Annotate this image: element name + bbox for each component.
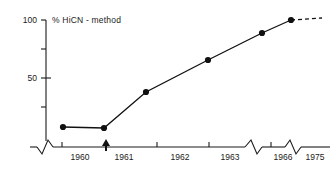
line-chart-svg: 100 50 % HiCN - method 1960 1961 196 [0,0,334,174]
series-line-extrapolation [291,18,322,20]
chart-title: % HiCN - method [52,15,121,25]
x-axis-label-1962: 1962 [171,152,190,162]
data-point [60,124,66,130]
x-axis-break-2 [245,140,262,154]
arrow-up-icon [102,139,110,151]
x-axis-label-1975: 1975 [306,152,325,162]
data-point [259,30,265,36]
data-point [101,125,107,131]
x-axis-label-1966: 1966 [274,152,293,162]
series-line-hicn [63,20,291,128]
x-axis-label-1963: 1963 [221,152,240,162]
y-axis-label-100: 100 [23,15,37,25]
data-point [205,57,211,63]
x-axis-break-1 [37,140,53,154]
chart-container: 100 50 % HiCN - method 1960 1961 196 [0,0,334,174]
data-point [288,17,294,23]
x-axis-label-1960: 1960 [71,152,90,162]
data-point [143,89,149,95]
x-axis-label-1961: 1961 [115,152,134,162]
y-axis-label-50: 50 [28,73,38,83]
